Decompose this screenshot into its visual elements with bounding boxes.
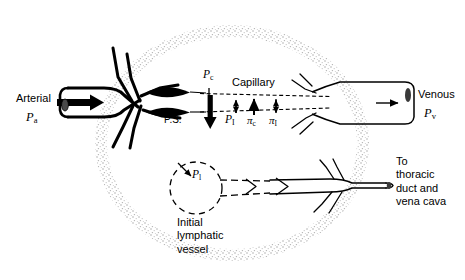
initial-lymphatic-vessel-label: Initial lymphatic vessel	[177, 216, 223, 256]
interstitial-pressure-label: PI	[225, 113, 235, 127]
destination-line-1: To	[396, 155, 446, 168]
destination-line-4: vena cava	[396, 195, 446, 208]
venous-label: Venous	[418, 88, 455, 100]
initial-lymphatic-line-3: vessel	[177, 243, 223, 256]
capillary-label: Capillary	[232, 76, 275, 88]
initial-lymphatic-line-2: lymphatic	[177, 229, 223, 242]
initial-lymphatic-line-1: Initial	[177, 216, 223, 229]
precapillary-sphincter-label: P.S.	[164, 114, 182, 125]
destination-line-2: thoracic	[396, 168, 446, 181]
capillary-pressure-label: Pc	[203, 68, 214, 82]
microcirculation-diagram: Arterial Pa Venous Pv P.S. Capillary Pc …	[0, 0, 465, 280]
arterial-label: Arterial	[16, 92, 51, 104]
destination-line-3: duct and	[396, 182, 446, 195]
lymph-pressure-label: Pl	[192, 168, 201, 182]
arterial-pressure-label: Pa	[26, 110, 37, 125]
venous-pressure-label: Pv	[424, 106, 436, 121]
destination-label: To thoracic duct and vena cava	[396, 155, 446, 209]
diagram-canvas	[0, 0, 465, 280]
arterial-end-cap	[62, 99, 69, 111]
interstitial-oncotic-label: πI	[269, 114, 277, 128]
lymphatic-end-cap	[387, 182, 391, 189]
capillary-oncotic-label: πc	[247, 114, 256, 128]
venule-end-cap	[405, 88, 411, 102]
interstitial-tissue-space	[0, 0, 465, 280]
